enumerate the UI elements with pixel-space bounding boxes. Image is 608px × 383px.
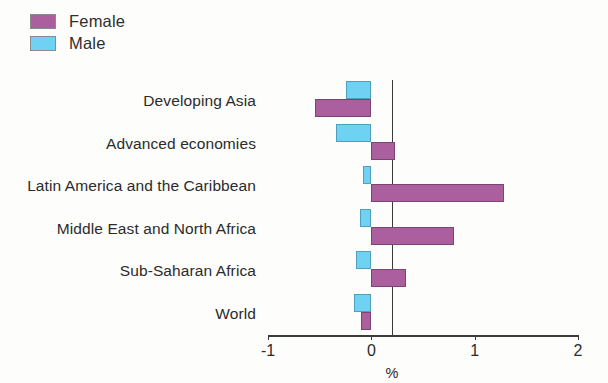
x-axis-tick bbox=[371, 335, 372, 340]
bar-female bbox=[371, 184, 503, 202]
bar-male bbox=[354, 294, 372, 312]
category-label: Developing Asia bbox=[0, 93, 256, 109]
x-axis-tick-label: 0 bbox=[367, 343, 376, 359]
x-axis-line bbox=[268, 335, 579, 337]
legend-item-male: Male bbox=[30, 32, 125, 54]
bar-male bbox=[356, 251, 372, 269]
category-tick bbox=[392, 291, 393, 296]
category-tick bbox=[392, 248, 393, 253]
bar-female bbox=[371, 227, 454, 245]
x-axis-tick bbox=[578, 335, 579, 340]
category-label: Sub-Saharan Africa bbox=[0, 263, 256, 279]
category-tick bbox=[392, 163, 393, 168]
x-axis-tick bbox=[268, 335, 269, 340]
legend-item-female: Female bbox=[30, 10, 125, 32]
bar-female bbox=[371, 142, 395, 160]
legend-label-female: Female bbox=[69, 13, 125, 30]
category-label: World bbox=[0, 306, 256, 322]
bar-male bbox=[363, 166, 371, 184]
category-tick bbox=[392, 206, 393, 211]
bar-male bbox=[360, 209, 371, 227]
bar-male bbox=[336, 124, 371, 142]
category-tick bbox=[392, 121, 393, 126]
bar-female bbox=[361, 312, 371, 330]
category-label: Middle East and North Africa bbox=[0, 221, 256, 237]
category-label: Advanced economies bbox=[0, 136, 256, 152]
x-axis-tick-label: 2 bbox=[574, 343, 583, 359]
x-axis-tick-label: -1 bbox=[261, 343, 275, 359]
chart-container: Female Male Developing AsiaAdvanced econ… bbox=[0, 0, 608, 383]
category-label: Latin America and the Caribbean bbox=[0, 178, 256, 194]
x-axis-tick-label: 1 bbox=[470, 343, 479, 359]
x-axis-tick bbox=[475, 335, 476, 340]
legend-swatch-male bbox=[30, 36, 56, 51]
chart-legend: Female Male bbox=[30, 10, 125, 54]
legend-label-male: Male bbox=[69, 35, 106, 52]
bar-male bbox=[346, 81, 372, 99]
legend-swatch-female bbox=[30, 14, 56, 29]
bar-female bbox=[315, 99, 372, 117]
plot-area bbox=[268, 80, 578, 335]
x-axis-title: % bbox=[386, 366, 399, 381]
bar-female bbox=[371, 269, 406, 287]
category-axis-labels: Developing AsiaAdvanced economiesLatin A… bbox=[0, 80, 262, 335]
